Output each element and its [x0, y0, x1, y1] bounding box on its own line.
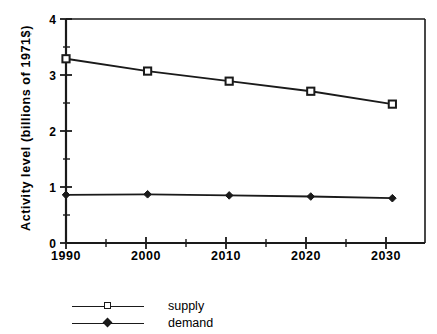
legend-item-supply: supply	[72, 298, 302, 315]
data-point-supply-2000	[144, 67, 151, 74]
data-point-supply-2010	[226, 78, 233, 85]
axis-frame	[66, 19, 425, 243]
legend-label-demand: demand	[168, 315, 213, 331]
open-square-marker-icon	[104, 302, 111, 309]
data-point-demand-2010	[225, 192, 233, 200]
series-layer	[62, 55, 396, 202]
filled-diamond-marker-icon	[103, 318, 113, 328]
data-point-demand-2000	[144, 190, 152, 198]
data-point-supply-1990	[62, 55, 69, 62]
series-demand	[62, 190, 396, 202]
data-point-supply-2030	[389, 101, 396, 108]
plot-area	[0, 0, 437, 334]
data-point-supply-2020	[307, 88, 314, 95]
series-supply	[62, 55, 396, 108]
chart-figure: Activity level (billions of 1971$) 4 3 2…	[0, 0, 437, 334]
chart-legend: supply demand	[72, 298, 302, 332]
data-point-demand-1990	[62, 191, 70, 199]
legend-label-supply: supply	[168, 298, 204, 314]
data-point-demand-2030	[389, 194, 397, 202]
data-point-demand-2020	[307, 193, 315, 201]
legend-item-demand: demand	[72, 315, 302, 332]
